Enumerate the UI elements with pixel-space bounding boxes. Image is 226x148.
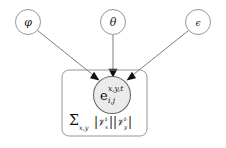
center-node-superscript: x,y,t — [108, 84, 124, 93]
center-node-subscript: i,j — [108, 96, 116, 105]
node-center: e x,y,t i,j — [94, 77, 131, 114]
center-node-base: e — [100, 88, 108, 103]
theta-node-label: θ — [110, 16, 117, 29]
node-epsilon: ϵ — [186, 10, 211, 35]
plate-cardinality-sup-y: t — [124, 116, 127, 122]
plate-diagram: φ θ ϵ e x,y,t i,j Σ x,y | 𝒱 x t | — [0, 0, 226, 148]
node-phi: φ — [16, 10, 41, 35]
phi-node-label: φ — [24, 16, 32, 29]
plate-sum-subscript: x,y — [79, 124, 89, 132]
plate-label: Σ x,y | 𝒱 x t | | 𝒱 y t | — [69, 112, 132, 132]
plate-cardinality-sup-x: t — [105, 116, 108, 122]
edge-phi-to-center — [38, 31, 98, 79]
figure-canvas: φ θ ϵ e x,y,t i,j Σ x,y | 𝒱 x t | — [0, 0, 226, 148]
edges-group — [38, 31, 189, 81]
plate-bar-4: | — [128, 115, 132, 129]
epsilon-node-label: ϵ — [195, 18, 200, 28]
plate-sum-symbol: Σ — [69, 112, 79, 128]
edge-epsilon-to-center — [129, 31, 189, 79]
node-theta: θ — [101, 10, 126, 35]
